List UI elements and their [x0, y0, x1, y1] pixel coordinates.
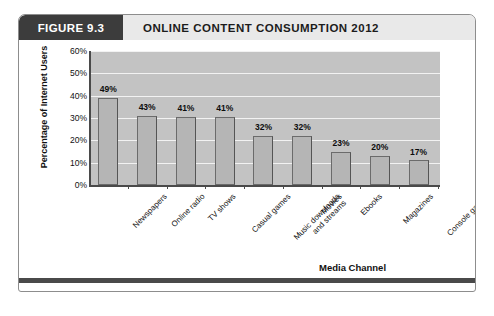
- bar-slot: 49%: [89, 51, 128, 185]
- y-axis-tick: 50%: [53, 69, 87, 78]
- bar-value-label: 20%: [371, 143, 388, 152]
- x-axis-tick: [205, 185, 206, 189]
- y-axis-tick-labels: 60%50%40%30%20%10%0%: [49, 40, 87, 220]
- bar-slot: 43%: [128, 51, 167, 185]
- bar-value-label: 41%: [177, 104, 194, 113]
- figure-header: FIGURE 9.3 ONLINE CONTENT CONSUMPTION 20…: [19, 15, 475, 40]
- bar-value-label: 32%: [255, 123, 272, 132]
- x-axis-category-label: TV shows: [206, 192, 237, 223]
- figure-title-bar: ONLINE CONTENT CONSUMPTION 2012: [123, 15, 475, 40]
- figure-number-badge: FIGURE 9.3: [19, 15, 123, 40]
- y-axis-tick: 60%: [53, 47, 87, 56]
- x-axis-tick: [128, 185, 129, 189]
- bar-slot: 17%: [399, 51, 438, 185]
- x-axis-tick: [244, 185, 245, 189]
- bar[interactable]: [176, 117, 196, 185]
- bar[interactable]: [215, 117, 235, 185]
- y-axis-tick: 10%: [53, 159, 87, 168]
- bars-layer: 49%43%41%41%32%32%23%20%17%: [89, 51, 438, 185]
- y-axis-tick: 0%: [53, 181, 87, 190]
- bar-value-label: 41%: [216, 104, 233, 113]
- x-axis-category-label: Newspapers: [131, 192, 169, 230]
- bar-slot: 41%: [167, 51, 206, 185]
- chart-region: Percentage of Internet Users 60%50%40%30…: [19, 40, 475, 285]
- bar-value-label: 49%: [100, 85, 117, 94]
- bar-slot: 32%: [244, 51, 283, 185]
- y-axis-tick: 30%: [53, 114, 87, 123]
- x-axis-line: [89, 185, 440, 187]
- bar-slot: 41%: [205, 51, 244, 185]
- bar[interactable]: [253, 136, 273, 185]
- bar-slot: 32%: [283, 51, 322, 185]
- bar[interactable]: [137, 116, 157, 185]
- bar-value-label: 23%: [333, 139, 350, 148]
- x-axis-category-labels: NewspapersOnline radioTV showsCasual gam…: [89, 190, 438, 260]
- y-axis-tick: 20%: [53, 136, 87, 145]
- x-axis-category-label: Casual games: [250, 192, 293, 235]
- bar-slot: 20%: [360, 51, 399, 185]
- x-axis-tick: [167, 185, 168, 189]
- bar[interactable]: [370, 156, 390, 185]
- bar[interactable]: [409, 160, 429, 185]
- x-axis-tick: [399, 185, 400, 189]
- figure-card: FIGURE 9.3 ONLINE CONTENT CONSUMPTION 20…: [18, 14, 476, 292]
- x-axis-category-label: Online radio: [170, 192, 207, 229]
- bar-value-label: 32%: [294, 123, 311, 132]
- x-axis-category-label: Magazines: [401, 192, 435, 226]
- bar-value-label: 43%: [139, 103, 156, 112]
- figure-title: ONLINE CONTENT CONSUMPTION 2012: [143, 22, 379, 34]
- x-axis-tick: [438, 185, 439, 189]
- bar[interactable]: [331, 152, 351, 186]
- x-axis-category-label: Console games: [445, 192, 476, 238]
- x-axis-title: Media Channel: [319, 262, 386, 273]
- bar[interactable]: [292, 136, 312, 185]
- bar-slot: 23%: [322, 51, 361, 185]
- figure-number-label: FIGURE 9.3: [38, 22, 105, 34]
- y-axis-tick: 40%: [53, 92, 87, 101]
- x-axis-tick: [360, 185, 361, 189]
- x-axis-category-label: Ebooks: [359, 192, 384, 217]
- bar-value-label: 17%: [410, 148, 427, 157]
- y-axis-title: Percentage of Internet Users: [39, 37, 49, 177]
- figure-bottom-rule: [19, 278, 475, 283]
- x-axis-tick: [322, 185, 323, 189]
- bar[interactable]: [98, 98, 118, 185]
- x-axis-tick: [283, 185, 284, 189]
